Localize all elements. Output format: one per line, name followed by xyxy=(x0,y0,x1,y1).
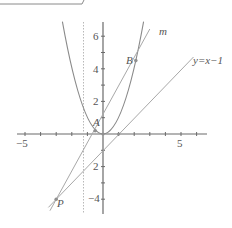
y-label-6: 6 xyxy=(93,30,99,42)
point-p-label: P xyxy=(56,197,64,209)
x-label-neg5: −5 xyxy=(16,137,28,149)
coordinate-plot: −5 5 6 4 2 2 −4 m y=x−1 B A P xyxy=(0,0,232,228)
y-label-2: 2 xyxy=(93,95,99,107)
point-b xyxy=(134,59,138,63)
line-m-label: m xyxy=(159,25,167,37)
y-label-neg2: 2 xyxy=(93,160,99,172)
point-a-label: A xyxy=(92,116,100,128)
top-box-border xyxy=(0,0,85,4)
line-m xyxy=(50,29,150,211)
point-b-label: B xyxy=(126,54,133,66)
y-label-neg4: −4 xyxy=(88,192,100,204)
point-origin xyxy=(101,132,104,135)
line-yx1-label: y=x−1 xyxy=(192,54,223,66)
x-label-5: 5 xyxy=(177,137,183,149)
y-label-4: 4 xyxy=(93,63,99,75)
line-y-equals-x-minus-1 xyxy=(48,57,193,207)
point-x-intercept xyxy=(117,132,120,135)
point-a xyxy=(93,129,97,133)
